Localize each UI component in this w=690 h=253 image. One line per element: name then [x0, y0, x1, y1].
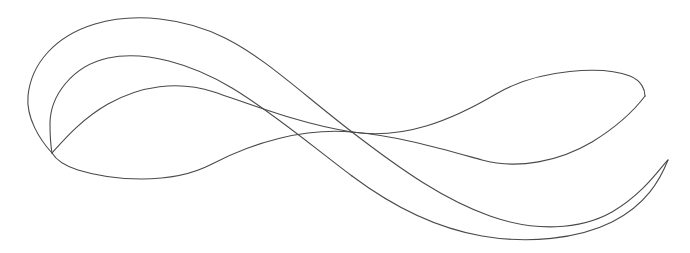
mobius-strip-svg: Mobius strip line drawing Black-on-white…	[0, 0, 690, 253]
mobius-strip-figure: Mobius strip line drawing Black-on-white…	[0, 0, 690, 253]
